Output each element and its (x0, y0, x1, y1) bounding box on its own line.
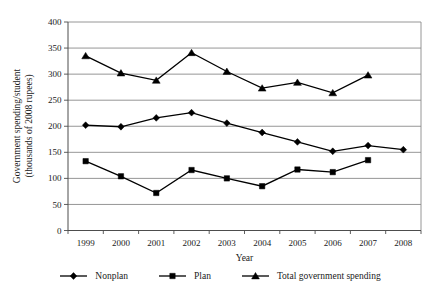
series-marker-nonplan (118, 123, 125, 130)
series-marker-total-government-spending (364, 72, 372, 78)
legend-item-plan: Plan (158, 271, 211, 281)
diamond-marker-icon (59, 271, 88, 281)
series-line-nonplan (86, 113, 404, 152)
series-marker-total-government-spending (188, 49, 196, 55)
x-tick-label: 2008 (394, 238, 413, 248)
legend-label-plan: Plan (194, 271, 211, 281)
x-tick-label: 2002 (183, 238, 201, 248)
series-marker-plan (295, 167, 300, 172)
x-tick-label: 2005 (288, 238, 307, 248)
y-tick-label: 150 (48, 147, 62, 157)
legend-label-nonplan: Nonplan (95, 271, 128, 281)
y-tick-label: 100 (48, 173, 62, 183)
x-axis-title: Year (68, 253, 421, 263)
series-marker-nonplan (153, 115, 160, 122)
x-tick-label: 2000 (112, 238, 131, 248)
y-tick-label: 400 (48, 17, 62, 27)
legend-item-nonplan: Nonplan (59, 271, 128, 281)
x-tick-label: 2007 (359, 238, 378, 248)
series-marker-total-government-spending (294, 79, 302, 85)
series-marker-nonplan (224, 120, 231, 127)
y-tick-label: 200 (48, 121, 62, 131)
chart: Government spending/student (thousands o… (0, 0, 440, 297)
series-marker-nonplan (188, 109, 195, 116)
series-marker-nonplan (329, 148, 336, 155)
series-marker-nonplan (82, 122, 89, 129)
x-tick-label: 2003 (218, 238, 237, 248)
series-marker-total-government-spending (223, 68, 231, 74)
legend-item-total-government-spending: Total government spending (241, 271, 381, 281)
series-marker-nonplan (294, 138, 301, 145)
series-marker-total-government-spending (82, 52, 90, 58)
series-marker-plan (118, 174, 123, 179)
triangle-marker-icon (241, 271, 270, 281)
legend-label-total: Total government spending (277, 271, 381, 281)
series-marker-nonplan (259, 129, 266, 136)
x-tick-label: 2004 (253, 238, 272, 248)
series-marker-plan (189, 167, 194, 172)
y-tick-label: 50 (53, 200, 63, 210)
series-marker-plan (365, 157, 370, 162)
y-tick-label: 350 (48, 43, 62, 53)
series-marker-plan (83, 158, 88, 163)
y-tick-label: 250 (48, 95, 62, 105)
x-tick-label: 2006 (324, 238, 343, 248)
series-marker-plan (154, 190, 159, 195)
y-tick-label: 300 (48, 69, 62, 79)
x-tick-label: 1999 (77, 238, 96, 248)
series-marker-plan (330, 169, 335, 174)
series-marker-total-government-spending (117, 70, 125, 76)
square-marker-icon (158, 271, 187, 281)
series-marker-nonplan (365, 142, 372, 149)
x-tick-label: 2001 (147, 238, 165, 248)
series-marker-plan (259, 183, 264, 188)
legend: Nonplan Plan Total government spending (0, 271, 440, 281)
series-marker-plan (224, 176, 229, 181)
y-tick-label: 0 (57, 226, 62, 236)
